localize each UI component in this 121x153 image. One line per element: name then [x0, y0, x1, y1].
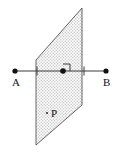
point-a-dot — [12, 68, 17, 73]
point-b-dot — [103, 68, 108, 73]
label-plane-p: P — [51, 107, 57, 119]
plane-p-shape — [36, 8, 82, 145]
intersection-point-dot — [60, 68, 66, 74]
label-a: A — [12, 76, 20, 88]
plane-label-dot — [46, 112, 48, 114]
geometry-figure: A B P — [0, 0, 121, 153]
label-b: B — [103, 76, 110, 88]
geometry-canvas: A B P — [0, 0, 121, 153]
